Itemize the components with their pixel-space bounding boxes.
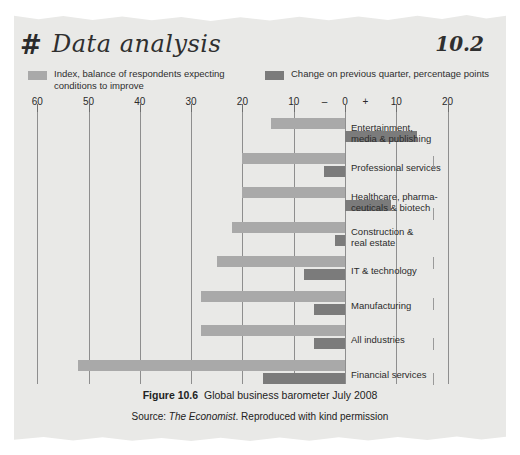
- label-column-divider: [433, 208, 434, 220]
- axis-tick: [191, 104, 192, 112]
- bar-index: [242, 187, 345, 198]
- bar-index: [271, 118, 345, 129]
- figure-label: Figure 10.6: [143, 389, 198, 401]
- chart-gridline: [345, 112, 346, 384]
- figure-title: Global business barometer July 2008: [204, 389, 377, 401]
- bar-index: [232, 222, 345, 233]
- label-column-divider: [433, 298, 434, 310]
- category-label: Healthcare, pharma- ceuticals & biotech: [351, 191, 438, 213]
- source-name: The Economist: [169, 411, 236, 422]
- bar-index: [217, 256, 345, 267]
- chart-gridline: [37, 112, 38, 384]
- source-prefix: Source:: [132, 411, 169, 422]
- label-column-divider: [433, 156, 434, 168]
- bar-index: [201, 291, 345, 302]
- label-column-divider: [433, 373, 434, 385]
- axis-tick: [345, 104, 346, 112]
- axis-tick: [140, 104, 141, 112]
- label-column-divider: [433, 338, 434, 350]
- bar-index: [78, 360, 345, 371]
- bar-change: [304, 269, 345, 280]
- page-content: # Data analysis 10.2 Index, balance of r…: [14, 8, 506, 444]
- bar-change: [314, 338, 345, 349]
- figure-caption: Figure 10.6 Global business barometer Ju…: [14, 389, 506, 401]
- bar-change: [314, 304, 345, 315]
- chart-gridline: [191, 112, 192, 384]
- chart-plot-area: 605040302010–0+1020Entertainment, media …: [14, 8, 506, 444]
- bar-change: [335, 235, 345, 246]
- axis-tick-label: +: [363, 96, 369, 107]
- scanned-page: # Data analysis 10.2 Index, balance of r…: [14, 8, 506, 444]
- bar-change: [324, 166, 345, 177]
- category-label: Professional services: [351, 162, 441, 173]
- category-label: Financial services: [351, 369, 427, 380]
- axis-tick: [89, 104, 90, 112]
- category-label: Entertainment, media & publishing: [351, 122, 431, 144]
- chart-gridline: [448, 112, 449, 384]
- axis-tick: [242, 104, 243, 112]
- axis-tick: [448, 104, 449, 112]
- axis-tick-label: –: [322, 96, 328, 107]
- chart-gridline: [89, 112, 90, 384]
- chart-gridline: [140, 112, 141, 384]
- category-label: Construction & real estate: [351, 226, 413, 248]
- axis-tick: [396, 104, 397, 112]
- category-label: All industries: [351, 334, 405, 345]
- bar-index: [201, 325, 345, 336]
- source-suffix: . Reproduced with kind permission: [236, 411, 389, 422]
- bar-change: [263, 373, 345, 384]
- label-column-divider: [433, 257, 434, 269]
- category-label: IT & technology: [351, 265, 417, 276]
- axis-tick: [37, 104, 38, 112]
- bar-index: [242, 153, 345, 164]
- figure-source: Source: The Economist. Reproduced with k…: [14, 411, 506, 422]
- category-label: Manufacturing: [351, 300, 411, 311]
- axis-tick: [294, 104, 295, 112]
